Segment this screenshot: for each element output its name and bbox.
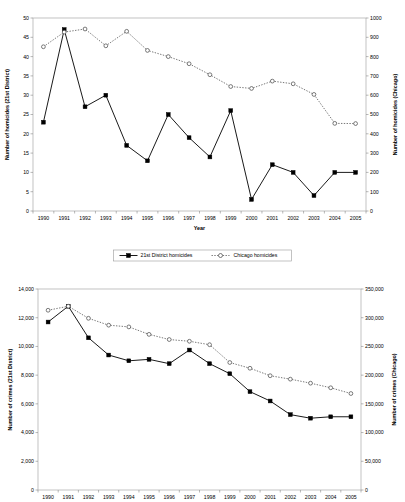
y2-tick-label: 100,000 xyxy=(365,429,384,435)
plot-area xyxy=(33,18,366,211)
data-point-marker xyxy=(333,121,337,125)
y-tick-label: 45 xyxy=(23,34,29,40)
y-tick-label: 12,000 xyxy=(18,315,34,321)
y-tick-label: 35 xyxy=(23,73,29,79)
data-point-marker xyxy=(42,120,46,124)
data-point-marker xyxy=(270,163,274,167)
data-point-marker xyxy=(248,366,252,370)
data-point-marker xyxy=(125,29,129,33)
y-tick-label: 25 xyxy=(23,111,29,117)
data-point-marker xyxy=(329,386,333,390)
data-point-marker xyxy=(349,392,353,396)
legend-marker-circle xyxy=(219,254,223,258)
data-point-marker xyxy=(349,415,353,419)
figure-page: 0510152025303540455001002003004005006007… xyxy=(0,0,405,502)
homicides-plot: 0510152025303540455001002003004005006007… xyxy=(0,0,405,268)
x-tick-label: 1990 xyxy=(42,494,54,500)
y-tick-label: 20 xyxy=(23,131,29,137)
y2-tick-label: 250,000 xyxy=(365,343,384,349)
x-tick-label: 1999 xyxy=(224,494,236,500)
x-tick-label: 1998 xyxy=(204,494,216,500)
y-tick-label: 4,000 xyxy=(21,429,34,435)
y2-tick-label: 900 xyxy=(370,34,379,40)
data-point-marker xyxy=(250,87,254,91)
data-point-marker xyxy=(187,136,191,140)
x-axis-title: Year xyxy=(194,225,206,231)
x-tick-label: 1992 xyxy=(79,215,91,221)
x-tick-label: 1996 xyxy=(163,215,175,221)
x-tick-label: 1991 xyxy=(63,494,75,500)
data-point-marker xyxy=(87,316,91,320)
x-tick-label: 2004 xyxy=(325,494,337,500)
y-tick-label: 0 xyxy=(26,208,29,214)
y2-tick-label: 350,000 xyxy=(365,286,384,292)
y2-tick-label: 800 xyxy=(370,54,379,60)
data-point-marker xyxy=(187,62,191,66)
y-tick-label: 2,000 xyxy=(21,458,34,464)
data-point-marker xyxy=(312,194,316,198)
data-point-marker xyxy=(208,73,212,77)
x-tick-label: 1995 xyxy=(143,494,155,500)
data-point-marker xyxy=(333,171,337,175)
data-point-marker xyxy=(229,85,233,89)
x-tick-label: 2004 xyxy=(329,215,341,221)
x-tick-label: 1997 xyxy=(183,215,195,221)
homicides-chart: 0510152025303540455001002003004005006007… xyxy=(0,0,405,268)
data-point-marker xyxy=(208,155,212,159)
y2-tick-label: 500 xyxy=(370,111,379,117)
y2-tick-label: 50,000 xyxy=(365,458,381,464)
x-tick-label: 2000 xyxy=(246,215,258,221)
y2-tick-label: 200,000 xyxy=(365,372,384,378)
legend-marker-square xyxy=(127,254,131,258)
data-point-marker xyxy=(146,49,150,53)
y-tick-label: 30 xyxy=(23,92,29,98)
data-point-marker xyxy=(46,308,50,312)
y-tick-label: 0 xyxy=(31,487,34,493)
data-point-marker xyxy=(250,198,254,202)
x-tick-label: 1995 xyxy=(142,215,154,221)
data-point-marker xyxy=(188,339,192,343)
data-point-marker xyxy=(147,332,151,336)
y-tick-label: 5 xyxy=(26,189,29,195)
data-point-marker xyxy=(312,93,316,97)
x-tick-label: 1999 xyxy=(225,215,237,221)
data-point-marker xyxy=(248,390,252,394)
data-point-marker xyxy=(62,30,66,34)
x-tick-label: 2002 xyxy=(285,494,297,500)
y-tick-label: 15 xyxy=(23,150,29,156)
data-point-marker xyxy=(46,320,50,324)
data-point-marker xyxy=(354,171,358,175)
y2-tick-label: 400 xyxy=(370,131,379,137)
y2-tick-label: 0 xyxy=(365,487,368,493)
y2-tick-label: 300,000 xyxy=(365,315,384,321)
y2-tick-label: 1000 xyxy=(370,15,382,21)
y-axis-title: Number of crimes (21st District) xyxy=(7,348,13,430)
y-tick-label: 40 xyxy=(23,54,29,60)
x-tick-label: 1996 xyxy=(163,494,175,500)
data-point-marker xyxy=(228,361,232,365)
x-tick-label: 1998 xyxy=(204,215,216,221)
y-tick-label: 10 xyxy=(23,169,29,175)
y2-tick-label: 150,000 xyxy=(365,401,384,407)
data-point-marker xyxy=(329,415,333,419)
x-tick-label: 2002 xyxy=(287,215,299,221)
data-point-marker xyxy=(208,343,212,347)
y2-tick-label: 700 xyxy=(370,73,379,79)
crimes-plot: 02,0004,0006,0008,00010,00012,00014,0000… xyxy=(0,268,405,502)
data-point-marker xyxy=(288,413,292,417)
data-point-marker xyxy=(354,122,358,126)
y-tick-label: 14,000 xyxy=(18,286,34,292)
data-point-marker xyxy=(42,45,46,49)
data-point-marker xyxy=(270,79,274,83)
y-axis-title: Number of homicides (21st District) xyxy=(4,69,10,160)
data-point-marker xyxy=(66,304,70,308)
y-tick-label: 10,000 xyxy=(18,343,34,349)
crimes-chart: 02,0004,0006,0008,00010,00012,00014,0000… xyxy=(0,268,405,502)
data-point-marker xyxy=(83,27,87,31)
data-point-marker xyxy=(166,113,170,117)
x-tick-label: 1991 xyxy=(58,215,70,221)
data-point-marker xyxy=(188,348,192,352)
data-point-marker xyxy=(83,105,87,109)
data-point-marker xyxy=(107,353,111,357)
x-tick-label: 2003 xyxy=(308,215,320,221)
